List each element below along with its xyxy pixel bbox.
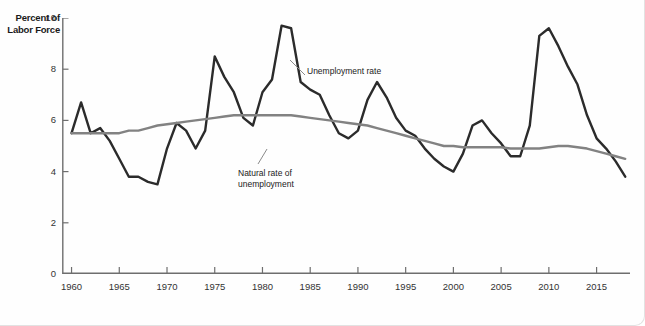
x-axis-tick-label: 2015 [579, 281, 615, 292]
x-axis-tick-label: 2000 [435, 281, 471, 292]
x-axis-tick-label: 2005 [483, 281, 519, 292]
y-axis-tick-label: 10 [34, 12, 56, 23]
y-axis-tick-label: 8 [34, 63, 56, 74]
x-axis-tick-label: 1980 [244, 281, 280, 292]
x-axis-tick-label: 1965 [101, 281, 137, 292]
unemployment-rate-annotation: Unemployment rate [307, 66, 381, 77]
x-axis-tick-label: 1995 [388, 281, 424, 292]
y-axis-ticks [63, 18, 69, 274]
y-axis-tick-label: 2 [34, 217, 56, 228]
y-axis-title-line-2: Labor Force [4, 24, 60, 36]
natural-rate-annotation: Natural rate of unemployment [238, 168, 294, 190]
plot-area [62, 18, 630, 274]
data-series-group [72, 26, 626, 185]
x-axis-tick-label: 1960 [54, 281, 90, 292]
natural-leader-line [258, 149, 267, 164]
x-axis-tick-label: 1985 [292, 281, 328, 292]
axes-group [63, 18, 630, 274]
x-axis-tick-label: 2010 [531, 281, 567, 292]
line-chart-svg [62, 18, 630, 274]
y-axis-tick-label: 4 [34, 166, 56, 177]
x-axis-tick-label: 1990 [340, 281, 376, 292]
y-axis-tick-label: 6 [34, 114, 56, 125]
annotation-leader-lines [258, 60, 305, 164]
series-line-unemployment-rate [72, 26, 626, 185]
x-axis-tick-label: 1970 [149, 281, 185, 292]
y-axis-tick-label: 0 [34, 268, 56, 279]
x-axis-tick-label: 1975 [197, 281, 233, 292]
chart-figure: Percent of Labor Force 0246810 196019651… [0, 0, 645, 326]
x-axis-ticks [72, 267, 597, 273]
